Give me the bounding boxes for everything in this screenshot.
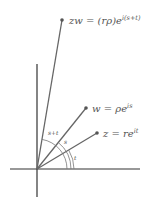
- label-w: w = ρeis: [92, 102, 133, 114]
- point-w: [84, 106, 88, 110]
- complex-multiplication-diagram: zw = (rρ)ei(s+t) w = ρeis z = reit s+t s…: [0, 0, 165, 204]
- point-z: [95, 131, 99, 135]
- angle-label-t: t: [74, 154, 77, 161]
- angle-label-s: s: [64, 138, 67, 145]
- angle-label-s-plus-t: s+t: [48, 129, 59, 136]
- vector-zw: [37, 20, 62, 169]
- label-z: z = reit: [102, 127, 139, 139]
- point-zw: [60, 18, 64, 22]
- label-zw: zw = (rρ)ei(s+t): [68, 14, 141, 26]
- vector-w: [37, 108, 86, 169]
